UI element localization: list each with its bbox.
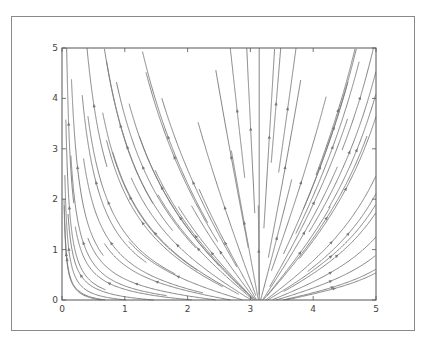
arrowhead-icon	[249, 127, 252, 131]
y-tick-label: 0	[52, 295, 58, 305]
streamline	[68, 214, 154, 300]
arrowhead-icon	[167, 135, 170, 139]
streamline	[146, 72, 218, 241]
arrowhead-icon	[67, 122, 70, 126]
x-tick-label: 5	[373, 304, 379, 314]
arrowhead-icon	[126, 145, 129, 149]
streamline	[66, 120, 106, 290]
y-tick-label: 3	[52, 144, 58, 154]
streamline	[82, 95, 146, 262]
x-tick-label: 0	[59, 304, 65, 314]
streamline	[216, 70, 248, 248]
arrowhead-icon	[331, 146, 334, 150]
arrowhead-icon	[68, 206, 71, 210]
streamline	[268, 80, 300, 258]
streamplot-chart: 012345 012345	[0, 0, 430, 346]
streamline	[104, 49, 153, 204]
arrowhead-icon	[274, 102, 277, 106]
x-tick-label: 3	[248, 304, 254, 314]
streamlines	[64, 48, 376, 300]
x-tick-label: 1	[122, 304, 128, 314]
x-tick-label: 4	[310, 304, 316, 314]
arrowhead-icon	[224, 206, 227, 210]
arrowhead-icon	[155, 281, 159, 284]
streamline	[72, 79, 104, 255]
streamline	[178, 207, 253, 300]
arrowhead-icon	[358, 96, 361, 100]
streamline	[283, 270, 376, 300]
arrowhead-icon	[268, 135, 271, 139]
arrowhead-icon	[283, 166, 286, 170]
arrowhead-icon	[82, 241, 85, 245]
streamline	[103, 113, 198, 271]
streamline	[113, 152, 239, 294]
streamline	[87, 48, 107, 167]
arrowhead-icon	[219, 251, 222, 255]
streamline	[284, 82, 348, 254]
streamline	[308, 194, 376, 272]
arrowhead-icon	[336, 109, 339, 113]
streamline	[276, 256, 375, 300]
streamline	[271, 48, 281, 163]
streamline	[198, 122, 256, 295]
y-tick-label: 2	[52, 194, 58, 204]
streamline	[155, 170, 253, 299]
arrowhead-icon	[134, 283, 138, 286]
y-tick-label: 5	[52, 43, 58, 53]
arrowhead-icon	[299, 181, 302, 185]
streamline	[342, 48, 373, 150]
streamline	[231, 151, 258, 300]
y-tick-label: 1	[52, 245, 58, 255]
x-tick-label: 2	[185, 304, 191, 314]
y-tick-label: 4	[52, 93, 58, 103]
